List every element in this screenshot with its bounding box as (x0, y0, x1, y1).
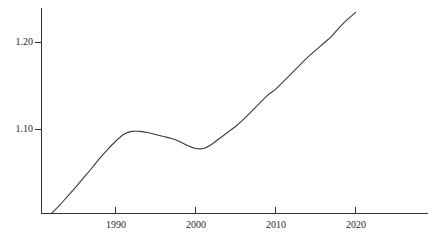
data-series-line (52, 12, 356, 213)
line-chart-plot (0, 0, 446, 249)
x-tick-label-2000: 2000 (174, 220, 218, 230)
x-tick-label-1990: 1990 (94, 220, 138, 230)
chart-container: 1.20 1.10 1990 2000 2010 2020 (0, 0, 446, 249)
y-tick-label-1.20: 1.20 (2, 37, 33, 47)
y-tick-label-1.10: 1.10 (2, 124, 33, 134)
x-tick-label-2010: 2010 (254, 220, 298, 230)
x-tick-label-2020: 2020 (334, 220, 378, 230)
